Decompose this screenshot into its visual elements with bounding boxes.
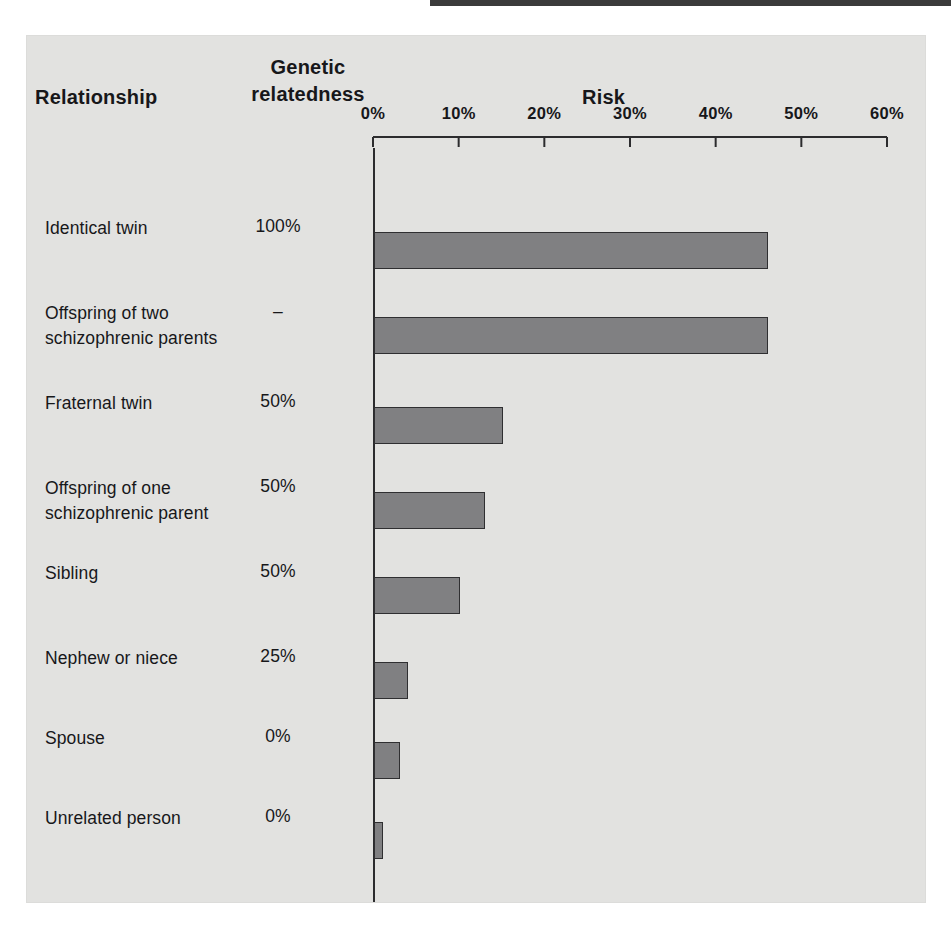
row-label-7: Unrelated person [45, 806, 220, 831]
row-genetic-relatedness-1: – [223, 301, 333, 322]
x-axis-tick-2: 20% [527, 104, 561, 123]
page-edge-strip [430, 0, 951, 6]
row-label-3: Offspring of oneschizophrenic parent [45, 476, 220, 526]
row-label-6: Spouse [45, 726, 220, 751]
row-label-2: Fraternal twin [45, 391, 220, 416]
row-genetic-relatedness-3: 50% [223, 476, 333, 497]
x-axis-tick-1: 10% [442, 104, 476, 123]
bar-7 [374, 822, 383, 859]
bar-4 [374, 577, 460, 614]
bar-3 [374, 492, 485, 529]
x-axis-tick-3: 30% [613, 104, 647, 123]
row-label-4: Sibling [45, 561, 220, 586]
row-label-line1: Unrelated person [45, 806, 220, 831]
row-genetic-relatedness-2: 50% [223, 391, 333, 412]
x-axis-tick-6: 60% [870, 104, 904, 123]
row-label-5: Nephew or niece [45, 646, 220, 671]
row-label-line1: Offspring of one [45, 476, 220, 501]
bar-2 [374, 407, 503, 444]
row-genetic-relatedness-7: 0% [223, 806, 333, 827]
chart-plot-area: 0%10%20%30%40%50%60% Identical twin100%O… [27, 36, 925, 902]
bar-6 [374, 742, 400, 779]
x-axis-tick-0: 0% [361, 104, 385, 123]
row-label-line1: Sibling [45, 561, 220, 586]
x-axis-tick-4: 40% [699, 104, 733, 123]
figure-panel: Relationship Genetic relatedness Risk 0%… [27, 36, 925, 902]
row-label-1: Offspring of twoschizophrenic parents [45, 301, 220, 351]
row-label-0: Identical twin [45, 216, 220, 241]
bar-0 [374, 232, 768, 269]
bar-5 [374, 662, 408, 699]
row-genetic-relatedness-5: 25% [223, 646, 333, 667]
row-label-line1: Nephew or niece [45, 646, 220, 671]
row-label-line1: Identical twin [45, 216, 220, 241]
row-label-line1: Offspring of two [45, 301, 220, 326]
bar-1 [374, 317, 768, 354]
x-axis [345, 126, 905, 148]
row-genetic-relatedness-0: 100% [223, 216, 333, 237]
row-genetic-relatedness-6: 0% [223, 726, 333, 747]
row-label-line2: schizophrenic parents [45, 326, 220, 351]
row-genetic-relatedness-4: 50% [223, 561, 333, 582]
row-label-line2: schizophrenic parent [45, 501, 220, 526]
row-label-line1: Spouse [45, 726, 220, 751]
x-axis-tick-5: 50% [784, 104, 818, 123]
row-label-line1: Fraternal twin [45, 391, 220, 416]
